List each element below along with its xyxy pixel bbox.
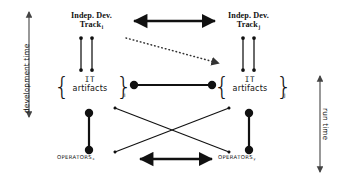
track-j-subscript: j — [258, 24, 260, 30]
track-i-line2: Tracki — [54, 20, 129, 29]
artifacts-i-subscript: i — [124, 92, 126, 98]
run-time-axis-label: run time — [321, 108, 330, 140]
diagram-connectors-layer — [0, 0, 349, 179]
node-artifacts-i: IT artifacts — [63, 76, 117, 93]
node-artifacts-j: IT artifacts — [223, 76, 277, 93]
artifacts-j-subscript: j — [284, 92, 286, 98]
track-i-line1: Indep. Dev. — [54, 11, 129, 20]
track-i-subscript: i — [101, 24, 103, 30]
node-operators-y: OPERATORSy — [218, 155, 282, 161]
track-j-line1: Indep. Dev. — [211, 11, 286, 20]
artifacts-j-line2: artifacts — [223, 85, 277, 94]
operators-x-label: OPERATORS — [57, 154, 92, 160]
node-operators-x: OPERATORSx — [57, 155, 121, 161]
diagram-canvas: development time run time Indep. Dev. Tr… — [0, 0, 349, 179]
operators-y-subscript: y — [253, 157, 256, 161]
artifacts-i-line2: artifacts — [63, 85, 117, 94]
operators-x-subscript: x — [92, 157, 95, 161]
track-j-line2: Trackj — [211, 20, 286, 29]
node-track-i: Indep. Dev. Tracki — [54, 11, 129, 29]
development-time-axis-label: development time — [22, 44, 31, 113]
operators-y-label: OPERATORS — [218, 154, 253, 160]
connector-track-i-to-artifacts-j-dotted — [126, 38, 218, 63]
node-track-j: Indep. Dev. Trackj — [211, 11, 286, 29]
